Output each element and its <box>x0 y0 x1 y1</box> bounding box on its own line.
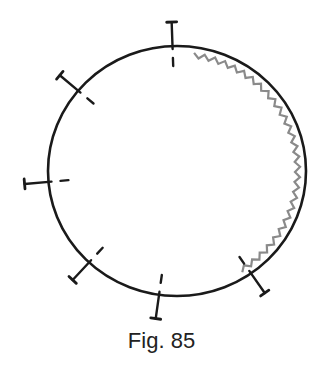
marker-lower-left <box>69 248 103 284</box>
marker-top <box>167 22 177 66</box>
marker-bottom <box>151 275 162 319</box>
circle-outline <box>48 46 306 296</box>
figure-caption: Fig. 85 <box>0 328 323 354</box>
figure-diagram <box>0 0 323 368</box>
marker-left <box>24 179 68 189</box>
marker-upper-left <box>57 71 94 103</box>
